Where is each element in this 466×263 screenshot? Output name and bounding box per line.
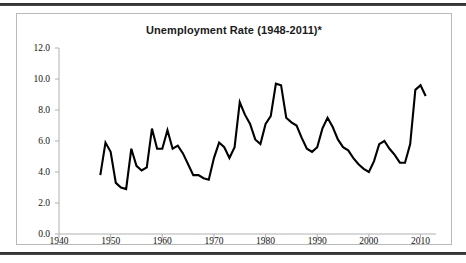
plot-area: [59, 48, 436, 234]
x-axis-labels: 19401950196019701980199020002010: [59, 236, 436, 254]
y-tick-label: 10.0: [33, 74, 50, 84]
y-tick-marks: [55, 48, 59, 234]
y-tick-label: 0.0: [38, 229, 50, 239]
y-axis-labels: 12.010.08.06.04.02.00.0: [17, 48, 55, 234]
y-tick-label: 6.0: [38, 136, 50, 146]
chart-container: Unemployment Rate (1948-2011)* 12.010.08…: [16, 13, 452, 245]
y-tick-label: 2.0: [38, 198, 50, 208]
y-tick-label: 4.0: [38, 167, 50, 177]
page-top-rule: [0, 3, 466, 6]
chart-title: Unemployment Rate (1948-2011)*: [17, 24, 451, 36]
y-tick-label: 8.0: [38, 105, 50, 115]
unemployment-rate-series: [100, 84, 425, 189]
unemployment-line-chart: [59, 48, 436, 234]
y-tick-label: 12.0: [33, 43, 50, 53]
